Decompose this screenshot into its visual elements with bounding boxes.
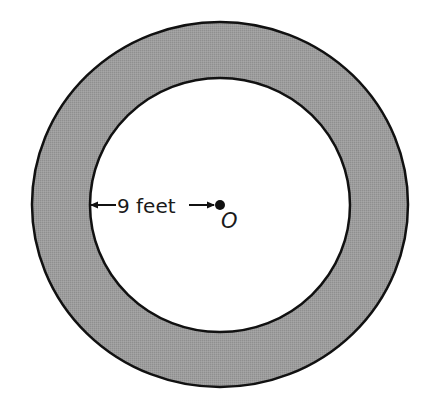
annulus-diagram: 9 feet O — [0, 0, 426, 411]
center-label: O — [221, 209, 238, 233]
radius-label: 9 feet — [117, 194, 176, 218]
